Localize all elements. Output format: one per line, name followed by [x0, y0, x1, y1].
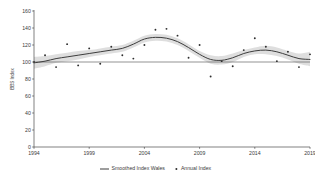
y-tick-label: 20: [25, 127, 31, 133]
x-tick-label: 2014: [249, 150, 261, 156]
annual-index-point: [99, 63, 101, 65]
annual-index-point: [154, 29, 156, 31]
y-tick-label: 140: [22, 25, 31, 31]
annual-index-point: [309, 53, 311, 55]
x-tick-label: 2004: [139, 150, 151, 156]
x-tick-label: 1999: [83, 150, 95, 156]
chart-container: 020406080100120140160 199419992004200920…: [0, 0, 315, 181]
legend-label: Annual Index: [181, 165, 212, 171]
chart-legend: Smoothed Index WalesAnnual Index: [100, 165, 212, 171]
annual-index-point: [110, 46, 112, 48]
annual-index-point: [298, 66, 300, 68]
x-tick-label: 2009: [194, 150, 206, 156]
annual-index-point: [221, 60, 223, 62]
y-tick-label: 120: [22, 42, 31, 48]
annual-index-point: [287, 51, 289, 53]
y-axis-title-text: BBS Index: [10, 67, 15, 89]
x-tick-label: 1994: [28, 150, 40, 156]
annual-index-point: [132, 58, 134, 60]
annual-index-point: [66, 43, 68, 45]
y-tick-label: 100: [22, 59, 31, 65]
annual-index-point: [199, 44, 201, 46]
y-tick-label: 80: [25, 76, 31, 82]
annual-index-point: [210, 76, 212, 78]
annual-index-point: [166, 28, 168, 30]
annual-index-point: [88, 47, 90, 49]
plot-background: [0, 0, 315, 181]
y-axis-title: BBS Index: [10, 67, 15, 89]
legend-point-swatch: [175, 168, 177, 170]
y-tick-label: 160: [22, 8, 31, 14]
annual-index-point: [121, 54, 123, 56]
annual-index-point: [44, 54, 46, 56]
annual-index-point: [232, 65, 234, 67]
annual-index-point: [254, 37, 256, 39]
annual-index-point: [276, 60, 278, 62]
annual-index-point: [188, 57, 190, 59]
annual-index-point: [265, 46, 267, 48]
y-tick-label: 40: [25, 110, 31, 116]
annual-index-point: [143, 44, 145, 46]
bbs-index-chart: 020406080100120140160 199419992004200920…: [0, 0, 315, 181]
annual-index-point: [55, 66, 57, 68]
annual-index-point: [77, 64, 79, 66]
y-tick-label: 60: [25, 93, 31, 99]
annual-index-point: [177, 35, 179, 37]
annual-index-point: [243, 49, 245, 51]
legend-label: Smoothed Index Wales: [112, 165, 166, 171]
x-tick-label: 2019: [304, 150, 315, 156]
